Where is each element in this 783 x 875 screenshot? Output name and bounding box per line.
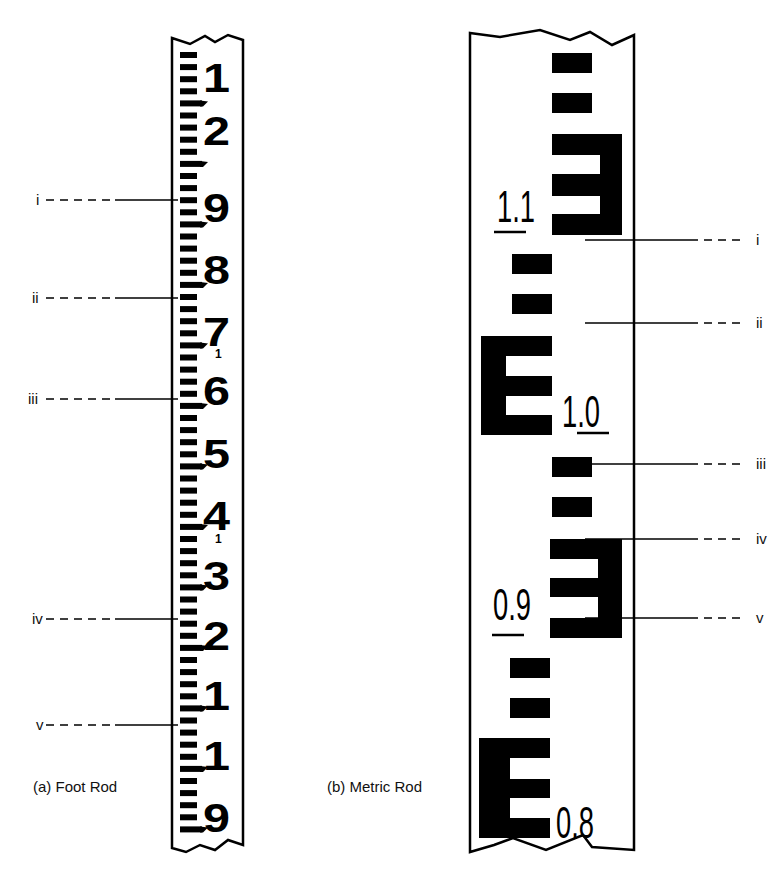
leader-label: iv <box>32 610 43 627</box>
foot-rod-numeral: 2 <box>203 109 230 153</box>
foot-rod-leader: ii <box>32 289 178 306</box>
leader-label: v <box>36 716 44 733</box>
metric-rod-numeral: 0.9 <box>493 580 531 629</box>
foot-rod-caption: (a) Foot Rod <box>33 778 117 795</box>
leader-label: ii <box>32 289 39 306</box>
leveling-rod-figure: 129876543211911 iiiiiiivv (a) Foot Rod <box>0 0 783 875</box>
leader-label: iii <box>756 455 766 472</box>
foot-rod-numeral: 5 <box>203 432 230 476</box>
metric-rod-numeral: 1.1 <box>497 182 535 231</box>
leader-label: iii <box>28 390 38 407</box>
foot-rod-numeral: 1 <box>203 734 230 778</box>
leader-label: i <box>36 191 39 208</box>
foot-rod-leader-lines: iiiiiiivv <box>28 191 178 733</box>
leader-label: i <box>756 231 759 248</box>
foot-rod-numeral: 3 <box>203 554 230 598</box>
foot-rod-leader: i <box>36 191 178 208</box>
foot-rod-numeral: 8 <box>203 248 230 292</box>
leader-label: ii <box>756 314 763 331</box>
foot-rod-leader: iii <box>28 390 178 407</box>
foot-rod-numeral: 1 <box>203 674 230 718</box>
metric-rod-numeral: 0.8 <box>556 798 594 847</box>
foot-rod-numeral: 9 <box>203 186 230 230</box>
foot-rod-numeral: 9 <box>203 796 230 840</box>
leader-label: v <box>756 609 764 626</box>
metric-rod-caption: (b) Metric Rod <box>327 778 422 795</box>
foot-rod-leader: v <box>36 716 178 733</box>
foot-rod-foot-marker: 1 <box>215 532 222 546</box>
foot-rod-leader: iv <box>32 610 178 627</box>
foot-rod: 129876543211911 iiiiiiivv (a) Foot Rod <box>28 35 243 852</box>
foot-rod-numeral: 2 <box>203 614 230 658</box>
metric-rod-numeral: 1.0 <box>562 387 600 436</box>
foot-rod-numeral: 1 <box>203 56 230 100</box>
foot-rod-foot-marker: 1 <box>215 347 222 361</box>
foot-rod-numeral: 6 <box>203 369 230 413</box>
metric-rod: 1.11.00.90.8 iiiiiiivv (b) Metric Rod <box>327 30 767 852</box>
leader-label: iv <box>756 530 767 547</box>
